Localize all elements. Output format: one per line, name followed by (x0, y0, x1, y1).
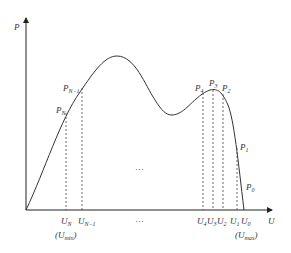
umax-annotation: (Umax) (235, 230, 258, 241)
point-label-p1: P1 (239, 142, 249, 153)
tick-label-u2: U2 (217, 216, 227, 227)
tick-label-un-1: UN−1 (78, 216, 96, 227)
ellipsis-middle: ··· (135, 164, 144, 174)
tick-label-u0: U0 (241, 216, 251, 227)
tick-label-un: UN (61, 216, 73, 227)
tick-label-u3: U3 (207, 216, 217, 227)
tick-label-u1: U1 (230, 216, 240, 227)
point-label-p4: P4 (194, 83, 204, 94)
point-label-pn: PN (55, 105, 67, 116)
point-label-p3: P3 (208, 78, 218, 89)
y-axis-label: P (13, 22, 20, 32)
point-label-pn-1: PN−1 (62, 83, 80, 94)
ellipsis-axis: ··· (135, 216, 144, 226)
point-label-p2: P2 (221, 83, 231, 94)
point-label-p0: P0 (245, 182, 255, 193)
dashed-guides (66, 88, 237, 210)
umin-annotation: (Umin) (55, 230, 77, 241)
x-axis-label: U (268, 216, 275, 226)
tick-label-u4: U4 (197, 216, 207, 227)
pu-curve-diagram: P U PN PN−1 P4 P3 P2 P1 P0 UN UN−1 U4 U3… (0, 0, 291, 253)
